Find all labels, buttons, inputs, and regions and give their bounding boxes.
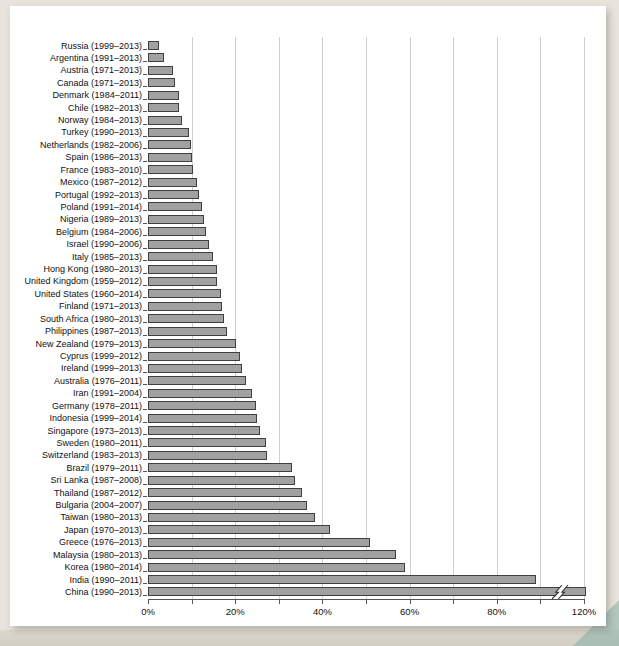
- y-axis-row-tick: [143, 86, 147, 87]
- y-axis-row-tick: [143, 61, 147, 62]
- x-axis-tick: [279, 600, 280, 604]
- y-axis-row-tick: [143, 533, 147, 534]
- chart-panel: Russia (1999–2013)Argentina (1991–2013)A…: [10, 6, 606, 626]
- category-label: Austria (1971–2013): [60, 65, 142, 75]
- category-label: Nigeria (1989–2013): [60, 214, 142, 224]
- x-axis-tick: [540, 600, 541, 604]
- x-axis-tick: [366, 600, 367, 604]
- y-axis-row-tick: [143, 397, 147, 398]
- category-label: Finland (1971–2013): [59, 301, 142, 311]
- category-label: United Kingdom (1959–2012): [24, 276, 142, 286]
- bar: [148, 277, 217, 286]
- bar-row-france: France (1983–2010): [10, 163, 606, 176]
- category-label: Italy (1985–2013): [72, 252, 142, 262]
- bar: [148, 289, 221, 298]
- bar: [148, 538, 370, 547]
- bar-row-bulgaria: Bulgaria (2004–2007): [10, 499, 606, 512]
- bar-row-portugal: Portugal (1992–2013): [10, 188, 606, 201]
- x-tick-label: 60%: [400, 606, 419, 617]
- bar: [148, 550, 396, 559]
- bar-row-singapore: Singapore (1973–2013): [10, 424, 606, 437]
- bar: [148, 103, 179, 112]
- bar-row-poland: Poland (1991–2014): [10, 200, 606, 213]
- bar-row-thailand: Thailand (1987–2012): [10, 486, 606, 499]
- bar-row-finland: Finland (1971–2013): [10, 300, 606, 313]
- y-axis-row-tick: [143, 173, 147, 174]
- bar-row-japan: Japan (1970–2013): [10, 523, 606, 536]
- bar-row-denmark: Denmark (1984–2011): [10, 89, 606, 102]
- category-label: Russia (1999–2013): [61, 41, 142, 51]
- y-axis-row-tick: [143, 484, 147, 485]
- category-label: Sweden (1980–2011): [57, 438, 142, 448]
- page-margin-strip: [0, 630, 619, 646]
- bar-row-ireland: Ireland (1999–2013): [10, 362, 606, 375]
- bar: [148, 190, 199, 199]
- y-axis-row-tick: [143, 186, 147, 187]
- category-label: Ireland (1999–2013): [61, 363, 142, 373]
- bar-row-switzerland: Switzerland (1983–2013): [10, 449, 606, 462]
- y-axis-row-tick: [143, 595, 147, 596]
- category-label: Turkey (1990–2013): [61, 127, 142, 137]
- category-label: Norway (1984–2013): [58, 115, 142, 125]
- y-axis-row-tick: [143, 422, 147, 423]
- category-label: Indonesia (1999–2014): [49, 413, 142, 423]
- bar: [148, 53, 164, 62]
- bar-row-indonesia: Indonesia (1999–2014): [10, 412, 606, 425]
- y-axis-row-tick: [143, 285, 147, 286]
- bar: [148, 376, 246, 385]
- x-tick-label: 20%: [226, 606, 245, 617]
- bar-row-south-africa: South Africa (1980–2013): [10, 312, 606, 325]
- bar-row-mexico: Mexico (1987–2012): [10, 176, 606, 189]
- category-label: Thailand (1987–2012): [54, 488, 142, 498]
- category-label: Israel (1990–2006): [66, 239, 142, 249]
- bar-row-russia: Russia (1999–2013): [10, 39, 606, 52]
- category-label: Poland (1991–2014): [60, 202, 142, 212]
- bar: [148, 364, 242, 373]
- y-axis-row-tick: [143, 49, 147, 50]
- category-label: Argentina (1991–2013): [50, 53, 142, 63]
- bar: [148, 128, 189, 137]
- bar: [148, 575, 536, 584]
- bar-row-china: China (1990–2013): [10, 585, 606, 598]
- bar-row-brazil: Brazil (1979–2011): [10, 461, 606, 474]
- bar-row-malaysia: Malaysia (1980–2013): [10, 548, 606, 561]
- bar-row-hong-kong: Hong Kong (1980–2013): [10, 263, 606, 276]
- bar: [148, 252, 213, 261]
- category-label: Malaysia (1980–2013): [53, 550, 142, 560]
- x-axis-tick: [148, 600, 149, 604]
- bar-row-cyprus: Cyprus (1999–2012): [10, 350, 606, 363]
- bar: [148, 153, 192, 162]
- bar-row-philippines: Philippines (1987–2013): [10, 325, 606, 338]
- bar-row-canada: Canada (1971–2013): [10, 76, 606, 89]
- category-label: Canada (1971–2013): [57, 78, 142, 88]
- y-axis-row-tick: [143, 360, 147, 361]
- bar: [148, 513, 315, 522]
- y-axis-row-tick: [143, 111, 147, 112]
- category-label: Chile (1982–2013): [68, 103, 142, 113]
- y-axis-row-tick: [143, 322, 147, 323]
- bar-row-norway: Norway (1984–2013): [10, 114, 606, 127]
- category-label: Sri Lanka (1987–2008): [50, 475, 142, 485]
- category-label: Japan (1970–2013): [64, 525, 142, 535]
- bar: [148, 91, 179, 100]
- y-axis-row-tick: [143, 571, 147, 572]
- bar: [148, 389, 252, 398]
- bar: [148, 215, 204, 224]
- y-axis-row-tick: [143, 99, 147, 100]
- bar-row-united-states: United States (1960–2014): [10, 287, 606, 300]
- x-axis-tick: [497, 600, 498, 604]
- y-axis-row-tick: [143, 198, 147, 199]
- category-label: Portugal (1992–2013): [55, 190, 142, 200]
- bar-row-netherlands: Netherlands (1982–2006): [10, 138, 606, 151]
- bar-row-turkey: Turkey (1990–2013): [10, 126, 606, 139]
- bar: [148, 66, 173, 75]
- category-label: Belgium (1984–2006): [56, 227, 142, 237]
- y-axis-row-tick: [143, 223, 147, 224]
- y-axis-row-tick: [143, 372, 147, 373]
- y-axis-row-tick: [143, 148, 147, 149]
- bar: [148, 140, 191, 149]
- y-axis-row-tick: [143, 446, 147, 447]
- y-axis-row-tick: [143, 248, 147, 249]
- category-label: South Africa (1980–2013): [40, 314, 142, 324]
- category-label: Switzerland (1983–2013): [42, 450, 142, 460]
